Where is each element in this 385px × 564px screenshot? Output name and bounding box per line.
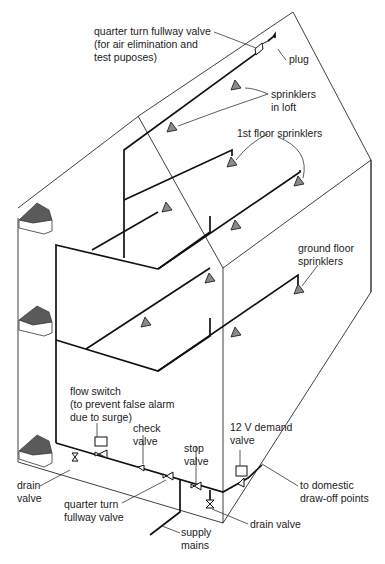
quarter-turn-valve-bottom-icon xyxy=(163,472,173,480)
sprinkler-ground-1 xyxy=(205,273,215,283)
label-quarter-turn-bottom: quarter turn fullway valve xyxy=(64,498,124,523)
labels: quarter turn fullway valve (for air elim… xyxy=(17,25,369,551)
demand-valve-icon xyxy=(236,466,247,476)
adjoining-house-middle xyxy=(19,306,52,336)
adjoining-house-top xyxy=(19,203,52,234)
drain-valve-right-icon xyxy=(206,500,214,508)
drain-valve-left-icon xyxy=(72,453,78,461)
demand-valve-body-icon xyxy=(238,478,244,487)
sprinkler-loft-1 xyxy=(231,80,241,90)
sprinkler-system-diagram: quarter turn fullway valve (for air elim… xyxy=(0,0,385,564)
sprinkler-ground-4 xyxy=(231,327,241,337)
sprinkler-1st-1 xyxy=(227,157,237,167)
sprinkler-ground-3 xyxy=(141,317,151,327)
label-sprinklers-loft: sprinklers in loft xyxy=(271,88,319,113)
label-flow-switch: flow switch (to prevent false alarm due … xyxy=(70,385,177,423)
pipework xyxy=(56,52,300,535)
check-valve-icon xyxy=(138,465,144,471)
label-stop-valve: stop valve xyxy=(184,442,209,467)
sprinkler-1st-2 xyxy=(294,176,304,186)
label-first-floor-sprinklers: 1st floor sprinklers xyxy=(237,127,322,139)
plug-icon xyxy=(268,34,275,41)
flow-switch-icon xyxy=(95,437,107,446)
label-drain-valve-right: drain valve xyxy=(250,518,301,530)
sprinkler-loft-2 xyxy=(167,122,177,132)
quarter-turn-valve-top-icon xyxy=(255,41,268,55)
sprinkler-1st-3 xyxy=(162,202,172,212)
label-quarter-turn-top: quarter turn fullway valve (for air elim… xyxy=(94,25,214,63)
adjoining-house-bottom xyxy=(19,435,52,467)
label-check-valve: check valve xyxy=(133,422,163,447)
label-ground-floor-sprinklers: ground floor sprinklers xyxy=(298,242,357,267)
sprinkler-1st-4 xyxy=(231,220,241,230)
label-domestic-draw-off: to domestic draw-off points xyxy=(300,479,369,504)
label-drain-valve-left: drain valve xyxy=(17,479,43,504)
sprinkler-heads xyxy=(141,80,304,337)
label-plug: plug xyxy=(289,53,309,65)
label-demand-valve: 12 V demand valve xyxy=(230,421,295,446)
label-supply-mains: supply mains xyxy=(181,526,214,551)
